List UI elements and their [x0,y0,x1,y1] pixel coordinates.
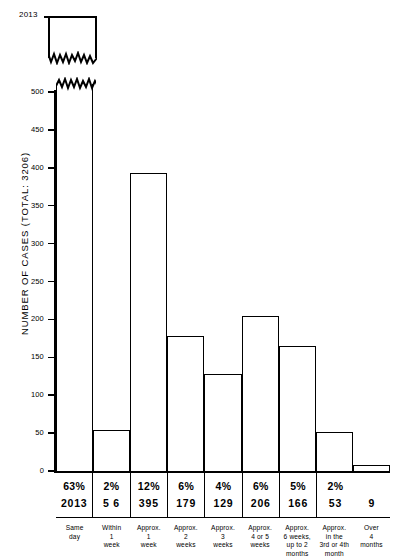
y-tick-label-200: 200 [4,314,44,323]
y-tick-300 [48,243,54,245]
bar-7 [316,432,353,472]
category-label-7: Approx.in the3rd or 4thmonth [316,520,353,560]
bar-4 [204,374,241,472]
count-label-7: 53 [329,498,342,509]
value-cell-2: 12%395 [131,472,168,517]
axis-break-inset: 2013 [0,0,395,70]
percent-label-4: 4% [216,481,232,492]
y-tick-450 [48,129,54,131]
category-label-0: Sameday [56,520,93,560]
category-label-5: Approx.4 or 5weeks [242,520,279,560]
y-tick-400 [48,167,54,169]
count-label-8: 9 [368,498,375,509]
bar-3 [167,336,204,472]
main-plot: NUMBER OF CASES (TOTAL: 3206) 0501001502… [0,70,395,526]
category-label-6: Approx.6 weeks,up to 2months [279,520,316,560]
y-tick-label-450: 450 [4,125,44,134]
category-label-8: Over4months [353,520,390,560]
bar-5 [242,316,279,472]
count-label-6: 166 [288,498,308,509]
percent-label-7: 2% [328,481,344,492]
percent-label-2: 12% [138,481,160,492]
percent-label-5: 6% [253,481,269,492]
category-label-2: Approx.1week [130,520,167,560]
value-label-grid: 63%20132%5 612%3956%1794%1296%2065%1662%… [56,472,390,518]
y-tick-label-0: 0 [4,466,44,475]
y-tick-label-100: 100 [4,390,44,399]
percent-label-1: 2% [104,481,120,492]
y-tick-label-300: 300 [4,239,44,248]
category-labels: SamedayWithin1weekApprox.1weekApprox.2we… [56,520,390,560]
value-cell-5: 6%206 [243,472,280,517]
y-tick-250 [48,281,54,283]
inset-zigzag-break [48,51,97,65]
value-cell-6: 5%166 [280,472,317,517]
y-tick-label-50: 50 [4,428,44,437]
count-label-3: 179 [176,498,196,509]
inset-bar-same-day [48,16,97,58]
bar-0 [56,84,93,472]
bar-zigzag-break [56,77,96,91]
count-label-1: 5 6 [103,498,120,509]
value-cell-8: 9 [354,472,390,517]
value-cell-4: 4%129 [205,472,242,517]
inset-value-label: 2013 [19,10,38,19]
y-tick-500 [48,91,54,93]
count-label-4: 129 [214,498,234,509]
count-label-0: 2013 [61,498,88,509]
count-label-5: 206 [251,498,271,509]
bar-1 [93,430,130,472]
y-tick-200 [48,319,54,321]
bar-8 [353,465,390,472]
percent-label-0: 63% [63,481,85,492]
percent-label-3: 6% [178,481,194,492]
value-cell-1: 2%5 6 [93,472,130,517]
y-tick-label-500: 500 [4,87,44,96]
value-cell-0: 63%2013 [56,472,93,517]
y-tick-0 [48,470,54,472]
y-tick-100 [48,394,54,396]
value-cell-7: 2%53 [317,472,353,517]
percent-label-6: 5% [290,481,306,492]
bar-series [56,70,390,472]
y-tick-label-150: 150 [4,352,44,361]
category-label-1: Within1week [93,520,130,560]
y-tick-label-250: 250 [4,277,44,286]
count-label-2: 395 [139,498,159,509]
bar-2 [130,173,167,472]
y-tick-label-350: 350 [4,201,44,210]
bar-6 [279,346,316,472]
value-cell-3: 6%179 [168,472,205,517]
category-label-4: Approx.3weeks [204,520,241,560]
y-tick-50 [48,432,54,434]
y-tick-150 [48,357,54,359]
y-tick-label-400: 400 [4,163,44,172]
category-label-3: Approx.2weeks [167,520,204,560]
y-tick-350 [48,205,54,207]
